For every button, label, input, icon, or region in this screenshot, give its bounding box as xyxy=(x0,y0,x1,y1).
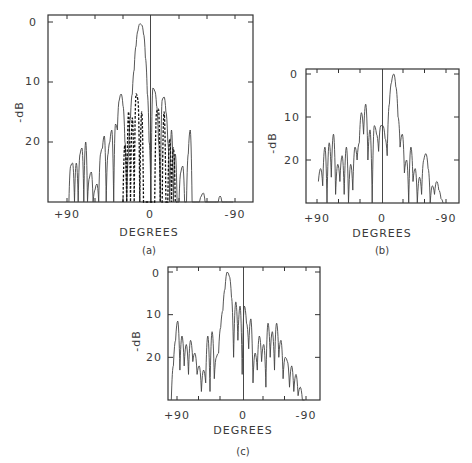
x-axis-label-a: DEGREES xyxy=(119,226,178,239)
x-tick-minus90-a: -90 xyxy=(225,208,246,221)
y-tick-20-b: 20 xyxy=(284,154,300,167)
x-tick-minus90-b: -90 xyxy=(436,212,457,225)
y-tick-0-a: 0 xyxy=(29,16,37,29)
x-tick-0-c: 0 xyxy=(239,409,247,422)
y-tick-10-c: 10 xyxy=(146,308,162,321)
x-tick-plus90-c: +90 xyxy=(164,409,190,422)
y-tick-10-b: 10 xyxy=(284,111,300,124)
y-axis-label-b: -dB xyxy=(266,132,279,154)
y-tick-0-c: 0 xyxy=(152,267,160,280)
x-tick-plus90-a: +90 xyxy=(54,208,80,221)
x-tick-0-a: 0 xyxy=(146,208,154,221)
panel-c: 0 10 20 -dB +90 0 -90 DEGREES (c) xyxy=(130,267,320,457)
y-axis-label-c: -dB xyxy=(130,330,143,352)
x-axis-label-c: DEGREES xyxy=(213,424,272,437)
y-tick-20-c: 20 xyxy=(146,351,162,364)
y-tick-10-a: 10 xyxy=(25,75,41,88)
x-axis-label-b: DEGREES xyxy=(352,227,411,240)
caption-c: (c) xyxy=(236,446,249,457)
y-tick-20-a: 20 xyxy=(25,135,41,148)
pattern-curve-a xyxy=(69,24,233,202)
figure: 0 10 20 -dB +90 0 -90 DEGREES (a) 0 10 2… xyxy=(0,0,472,463)
caption-b: (b) xyxy=(375,245,389,256)
x-tick-minus90-c: -90 xyxy=(296,409,317,422)
x-tick-0-b: 0 xyxy=(378,212,386,225)
panel-a: 0 10 20 -dB +90 0 -90 DEGREES (a) xyxy=(13,15,253,256)
y-axis-label-a: -dB xyxy=(13,101,26,123)
caption-a: (a) xyxy=(142,245,156,256)
x-tick-plus90-b: +90 xyxy=(304,212,330,225)
pattern-curve-b xyxy=(318,74,443,203)
y-tick-0-b: 0 xyxy=(290,68,298,81)
panel-b: 0 10 20 -dB +90 0 -90 DEGREES (b) xyxy=(266,68,459,256)
pattern-curve-c xyxy=(171,272,304,400)
